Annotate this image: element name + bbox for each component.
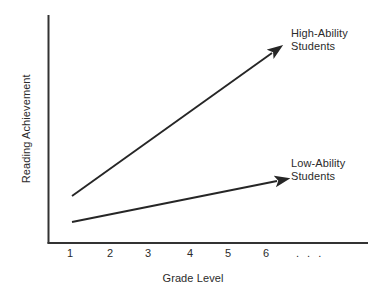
high-ability-label-line1: High-Ability [291,27,348,39]
reading-achievement-chart: Reading Achievement Grade Level 1 2 3 4 … [0,0,383,298]
x-tick-label-6: 6 [257,247,275,260]
high-ability-label-line2: Students [291,40,335,52]
x-tick-label-3: 3 [139,247,157,260]
low-ability-label-line1: Low-Ability [291,157,345,169]
y-axis-title: Reading Achievement [20,34,33,224]
low-ability-trend-line [72,181,277,222]
high-ability-trend-line [72,53,272,196]
low-ability-series-label: Low-AbilityStudents [291,157,345,184]
x-axis-title: Grade Level [128,272,258,285]
x-tick-label-5: 5 [219,247,237,260]
high-ability-series-label: High-AbilityStudents [291,27,348,54]
x-axis-continuation-ellipsis: . . . [296,247,324,260]
x-tick-label-2: 2 [101,247,119,260]
low-ability-label-line2: Students [291,170,335,182]
x-tick-label-4: 4 [181,247,199,260]
x-tick-label-1: 1 [61,247,79,260]
